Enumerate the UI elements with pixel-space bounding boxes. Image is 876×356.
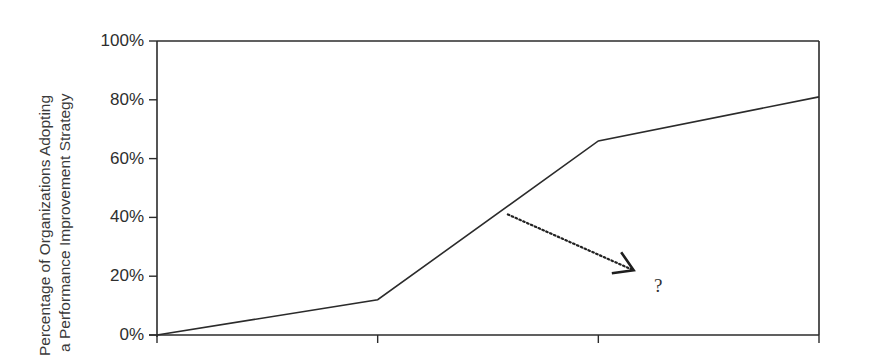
adoption-line xyxy=(157,97,819,335)
y-tick-label: 0% xyxy=(84,326,144,344)
data-series xyxy=(157,97,819,335)
y-axis-label-line-2: a Performance Improvement Strategy xyxy=(56,94,74,352)
y-tick-label: 40% xyxy=(84,208,144,226)
y-tick-label: 80% xyxy=(84,91,144,109)
dotted-arrow-shaft xyxy=(508,214,634,270)
y-axis-ticks xyxy=(149,41,157,335)
y-tick-label: 100% xyxy=(84,32,144,50)
y-tick-label: 60% xyxy=(84,150,144,168)
x-axis-ticks xyxy=(157,335,819,343)
question-mark-annotation: ? xyxy=(654,275,662,297)
trend-arrow-annotation xyxy=(508,214,634,273)
chart-axes xyxy=(149,41,819,337)
y-axis-label-line-1: Percentage of Organizations Adopting xyxy=(36,95,54,356)
y-tick-label: 20% xyxy=(84,267,144,285)
